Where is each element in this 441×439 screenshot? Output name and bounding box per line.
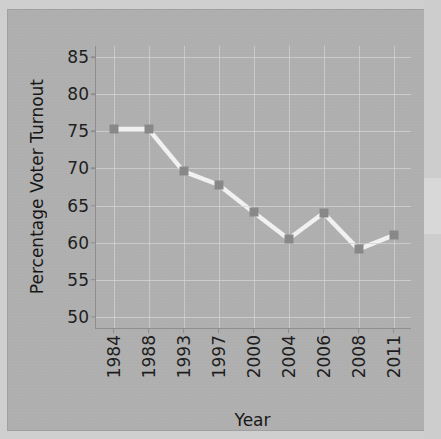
- y-axis-tick-label: 75: [67, 121, 89, 141]
- gridline-vertical: [359, 46, 360, 328]
- x-axis-tick-label: 2008: [349, 335, 369, 378]
- y-axis-tick-label: 65: [67, 196, 89, 216]
- plot-area: 5055606570758085198419881993199720002004…: [95, 46, 411, 329]
- x-axis-tick-label-text: 1988: [139, 335, 159, 378]
- data-point-marker: [214, 180, 223, 189]
- data-point-marker: [249, 208, 258, 217]
- y-axis-tick-label: 60: [67, 233, 89, 253]
- data-point-marker: [354, 245, 363, 254]
- x-axis-tick: [183, 328, 185, 333]
- x-axis-tick-label-text: 2008: [349, 335, 369, 378]
- y-axis-tick: [91, 93, 96, 95]
- chart-figure: Percentage Voter Turnout 505560657075808…: [7, 9, 426, 431]
- y-axis-tick: [91, 56, 96, 58]
- y-axis-tick: [91, 316, 96, 318]
- y-axis-tick: [91, 242, 96, 244]
- page-edge-lower: [424, 234, 441, 439]
- gridline-vertical: [394, 46, 395, 328]
- y-axis-tick-label: 50: [67, 307, 89, 327]
- y-axis-tick: [91, 279, 96, 281]
- x-axis-tick: [323, 328, 325, 333]
- data-point-marker: [109, 125, 118, 134]
- y-axis-tick-label: 70: [67, 158, 89, 178]
- gridline-vertical: [114, 46, 115, 328]
- x-axis-tick-label-text: 1984: [104, 335, 124, 378]
- x-axis-title: Year: [95, 410, 410, 430]
- y-axis-title-text: Percentage Voter Turnout: [27, 79, 47, 294]
- page-edge-upper: [424, 0, 441, 178]
- data-point-marker: [179, 167, 188, 176]
- data-point-marker: [144, 125, 153, 134]
- x-axis-tick-label: 2006: [314, 335, 334, 378]
- x-axis-tick-label: 1993: [174, 335, 194, 378]
- y-axis-tick-label: 55: [67, 270, 89, 290]
- x-axis-tick-label: 1997: [209, 335, 229, 378]
- x-axis-tick: [218, 328, 220, 333]
- gridline-vertical: [289, 46, 290, 328]
- x-axis-tick-label-text: 2004: [279, 335, 299, 378]
- y-axis-tick: [91, 168, 96, 170]
- x-axis-tick-label: 1984: [104, 335, 124, 378]
- x-axis-tick: [393, 328, 395, 333]
- gridline-vertical: [254, 46, 255, 328]
- x-axis-tick-label-text: 1997: [209, 335, 229, 378]
- x-axis-tick-label: 1988: [139, 335, 159, 378]
- y-axis-tick-label: 80: [67, 84, 89, 104]
- data-point-marker: [319, 208, 328, 217]
- y-axis-title: Percentage Voter Turnout: [26, 46, 48, 328]
- x-axis-tick-label-text: 2000: [244, 335, 264, 378]
- gridline-vertical: [184, 46, 185, 328]
- y-axis-tick: [91, 131, 96, 133]
- page-edge-highlight: [424, 178, 441, 234]
- x-axis-tick: [288, 328, 290, 333]
- x-axis-tick: [253, 328, 255, 333]
- data-point-marker: [284, 234, 293, 243]
- y-axis-tick-label: 85: [67, 47, 89, 67]
- x-axis-tick-label-text: 2011: [384, 335, 404, 378]
- x-axis-tick-label: 2004: [279, 335, 299, 378]
- y-axis-tick: [91, 205, 96, 207]
- x-axis-tick-label: 2011: [384, 335, 404, 378]
- data-point-marker: [389, 231, 398, 240]
- gridline-vertical: [324, 46, 325, 328]
- x-axis-tick: [113, 328, 115, 333]
- x-axis-tick-label-text: 1993: [174, 335, 194, 378]
- x-axis-tick: [148, 328, 150, 333]
- figure-page: Percentage Voter Turnout 505560657075808…: [0, 0, 441, 439]
- x-axis-tick: [358, 328, 360, 333]
- x-axis-tick-label: 2000: [244, 335, 264, 378]
- gridline-vertical: [149, 46, 150, 328]
- x-axis-tick-label-text: 2006: [314, 335, 334, 378]
